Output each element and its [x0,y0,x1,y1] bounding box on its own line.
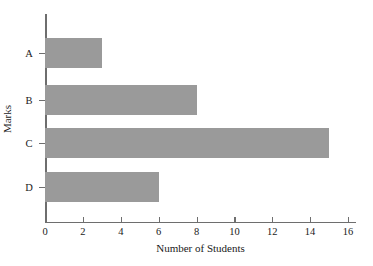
bar-category-d [45,172,159,202]
y-tick-a [39,53,45,54]
x-tick-4 [121,217,122,222]
x-tick-label-4: 4 [109,226,133,238]
plot-area: 0 2 4 6 8 10 12 14 16 A B C D Number of … [0,0,373,266]
chart-page: 0 2 4 6 8 10 12 14 16 A B C D Number of … [0,0,373,266]
y-tick-label-b: B [22,95,36,106]
bar-category-c [45,128,329,158]
x-tick-16 [348,217,349,222]
x-tick-8 [197,217,198,222]
x-tick-label-0: 0 [33,226,57,238]
x-tick-0 [45,217,46,222]
x-tick-label-8: 8 [185,226,209,238]
x-tick-label-12: 12 [260,226,284,238]
y-tick-label-d: D [22,182,36,193]
x-tick-12 [272,217,273,222]
y-axis-title: Marks [1,93,13,145]
x-axis-title: Number of Students [45,242,356,254]
y-tick-c [39,143,45,144]
x-tick-14 [310,217,311,222]
x-tick-6 [159,217,160,222]
x-tick-2 [83,217,84,222]
y-tick-label-c: C [22,138,36,149]
x-tick-label-14: 14 [298,226,322,238]
y-tick-d [39,187,45,188]
bar-category-b [45,85,197,115]
y-tick-b [39,100,45,101]
x-tick-label-16: 16 [336,226,360,238]
x-tick-label-10: 10 [222,226,246,238]
x-tick-10 [234,217,235,222]
x-tick-label-2: 2 [71,226,95,238]
bar-category-a [45,38,102,68]
x-tick-label-6: 6 [147,226,171,238]
y-tick-label-a: A [22,48,36,59]
